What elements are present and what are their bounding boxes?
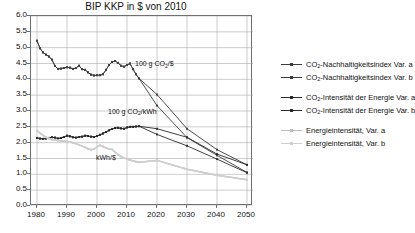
y-tick-label: 6.0 (1, 11, 27, 19)
y-tick-mark (27, 126, 30, 127)
x-tick-mark (96, 205, 97, 208)
x-tick-mark (156, 205, 157, 208)
y-tick-label: 0.5 (1, 185, 27, 193)
y-tick-label: 4.5 (1, 59, 27, 67)
x-tick-mark (246, 205, 247, 208)
y-tick-mark (27, 142, 30, 143)
x-tick-mark (36, 205, 37, 208)
x-tick-label: 1990 (51, 211, 81, 219)
x-tick-label: 2020 (141, 211, 171, 219)
legend-item-co2-intensitaet-der-energie-var-b[interactable]: CO2-Intensität der Energie Var. b (281, 104, 410, 117)
annot-co2-per-dollar: 100 g CO2/$ (135, 60, 174, 68)
y-tick-mark (27, 78, 30, 79)
y-tick-mark (27, 94, 30, 95)
y-tick-mark (27, 173, 30, 174)
legend-label: Energieintensität, Var. b (306, 139, 385, 148)
y-tick-label: 0.0 (1, 201, 27, 209)
x-tick-mark (66, 205, 67, 208)
chart-title: BIP KKP in $ von 2010 (0, 0, 272, 13)
annot-kwh-per-dollar: kWh/$ (96, 154, 116, 162)
legend-marker-icon (281, 139, 302, 148)
x-tick-label: 2040 (201, 211, 231, 219)
legend-label: CO2-Nachhaltigkeitsindex Var. b (306, 73, 413, 83)
x-tick-label: 2010 (111, 211, 141, 219)
y-tick-mark (27, 15, 30, 16)
legend-item-energieintensitaet-var-a[interactable]: Energieintensität, Var. a (281, 124, 410, 137)
chart-legend: CO2-Nachhaltigkeitsindex Var. aCO2-Nachh… (281, 58, 410, 157)
y-tick-label: 2.0 (1, 138, 27, 146)
series-co2-nachhaltigkeitsindex-var-b (36, 40, 248, 166)
y-tick-label: 4.0 (1, 74, 27, 82)
legend-label: Energieintensität, Var. a (306, 126, 385, 135)
x-tick-label: 1980 (21, 211, 51, 219)
x-tick-mark (186, 205, 187, 208)
y-tick-label: 1.5 (1, 154, 27, 162)
legend-item-co2-nachhaltigkeitsindex-var-a[interactable]: CO2-Nachhaltigkeitsindex Var. a (281, 58, 410, 71)
y-tick-label: 1.0 (1, 169, 27, 177)
y-tick-label: 2.5 (1, 122, 27, 130)
y-tick-label: 3.0 (1, 106, 27, 114)
y-tick-mark (27, 205, 30, 206)
legend-item-energieintensitaet-var-b[interactable]: Energieintensität, Var. b (281, 137, 410, 150)
y-tick-mark (27, 63, 30, 64)
legend-group-co2-intensitaet: CO2-Intensität der Energie Var. aCO2-Int… (281, 91, 410, 117)
legend-marker-icon (281, 126, 302, 135)
x-tick-label: 2000 (81, 211, 111, 219)
legend-marker-icon (281, 73, 302, 82)
y-tick-label: 5.0 (1, 43, 27, 51)
legend-marker-icon (281, 93, 302, 102)
y-tick-mark (27, 31, 30, 32)
legend-item-co2-nachhaltigkeitsindex-var-b[interactable]: CO2-Nachhaltigkeitsindex Var. b (281, 71, 410, 84)
legend-label: CO2-Intensität der Energie Var. b (306, 106, 415, 116)
x-tick-label: 2030 (171, 211, 201, 219)
legend-item-co2-intensitaet-der-energie-var-a[interactable]: CO2-Intensität der Energie Var. a (281, 91, 410, 104)
y-tick-label: 3.5 (1, 90, 27, 98)
legend-group-energieintensitaet: Energieintensität, Var. aEnergieintensit… (281, 124, 410, 150)
annot-co2-per-kwh: 100 g CO2/kWh (108, 108, 157, 116)
y-tick-mark (27, 189, 30, 190)
y-tick-label: 5.5 (1, 27, 27, 35)
legend-marker-icon (281, 106, 302, 115)
y-tick-mark (27, 110, 30, 111)
x-tick-mark (216, 205, 217, 208)
x-tick-mark (126, 205, 127, 208)
legend-label: CO2-Intensität der Energie Var. a (306, 93, 415, 103)
x-tick-label: 2050 (231, 211, 261, 219)
legend-label: CO2-Nachhaltigkeitsindex Var. a (306, 60, 413, 70)
legend-group-nachhaltigkeitsindex: CO2-Nachhaltigkeitsindex Var. aCO2-Nachh… (281, 58, 410, 84)
y-tick-mark (27, 47, 30, 48)
legend-marker-icon (281, 60, 302, 69)
y-tick-mark (27, 158, 30, 159)
